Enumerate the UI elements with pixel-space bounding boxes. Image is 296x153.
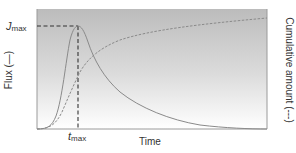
jmax-subscript: max bbox=[12, 24, 27, 33]
tmax-subscript: max bbox=[71, 134, 86, 143]
tmax-label: tmax bbox=[68, 130, 86, 143]
jmax-label: Jmax bbox=[6, 20, 27, 33]
x-axis-label: Time bbox=[139, 136, 161, 147]
plot-svg bbox=[0, 0, 296, 153]
flux-cumulative-chart: Jmax tmax Flux (—) Cumulative amount (--… bbox=[0, 0, 296, 153]
y-axis-right-label: Cumulative amount (---) bbox=[284, 17, 295, 123]
y-axis-left-label: Flux (—) bbox=[3, 51, 14, 89]
